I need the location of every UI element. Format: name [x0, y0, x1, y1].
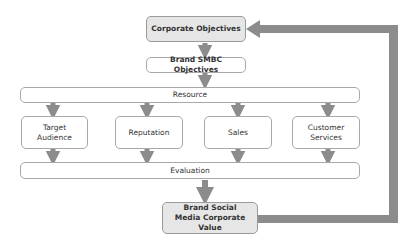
- resource-node: Resource: [20, 87, 360, 103]
- sales-node: Sales: [204, 116, 272, 149]
- target-audience-node: Target Audience: [21, 116, 88, 149]
- sales-label: Sales: [228, 128, 248, 138]
- target-audience-label: Target Audience: [32, 123, 77, 143]
- brand-social-media-value-label: Brand Social Media Corporate Value: [170, 203, 250, 233]
- customer-services-node: Customer Services: [292, 116, 360, 149]
- evaluation-label: Evaluation: [170, 166, 210, 176]
- reputation-node: Reputation: [115, 116, 183, 149]
- customer-services-label: Customer Services: [304, 123, 349, 143]
- evaluation-node: Evaluation: [20, 162, 360, 179]
- reputation-label: Reputation: [129, 128, 170, 138]
- brand-smbc-objectives-node: Brand SMBC Objectives: [146, 57, 246, 73]
- brand-social-media-value-node: Brand Social Media Corporate Value: [162, 202, 258, 234]
- corporate-objectives-node: Corporate Objectives: [146, 16, 246, 42]
- corporate-objectives-label: Corporate Objectives: [151, 24, 240, 34]
- brand-smbc-objectives-label: Brand SMBC Objectives: [147, 55, 245, 75]
- resource-label: Resource: [173, 90, 207, 100]
